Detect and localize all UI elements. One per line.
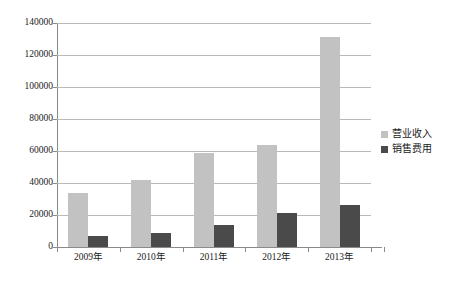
y-tick-label: 80000 [0, 114, 53, 124]
x-tick-mark [120, 247, 121, 252]
bar-group [131, 23, 171, 247]
bar-revenue[interactable] [131, 180, 151, 247]
x-tick-label: 2013年 [308, 253, 371, 263]
legend-label: 销售费用 [392, 144, 432, 154]
bar-expense[interactable] [214, 225, 234, 247]
y-tick-label: 100000 [0, 82, 53, 92]
legend-item-revenue[interactable]: 营业收入 [381, 129, 432, 139]
bar-expense[interactable] [88, 236, 108, 247]
legend-item-expense[interactable]: 销售费用 [381, 144, 432, 154]
y-tick-label: 120000 [0, 50, 53, 60]
x-tick-mark [245, 247, 246, 252]
bar-revenue[interactable] [68, 193, 88, 247]
x-tick-label: 2010年 [120, 253, 183, 263]
y-tick-label: 40000 [0, 178, 53, 188]
x-tick-mark [183, 247, 184, 252]
bar-revenue[interactable] [257, 145, 277, 247]
gridline [57, 247, 371, 248]
chart-legend: 营业收入销售费用 [381, 129, 432, 154]
bar-group [68, 23, 108, 247]
x-tick-mark [384, 247, 385, 252]
bar-group [257, 23, 297, 247]
bar-revenue[interactable] [320, 37, 340, 247]
x-tick-label: 2012年 [245, 253, 308, 263]
x-tick-label: 2011年 [183, 253, 246, 263]
y-tick-label: 20000 [0, 210, 53, 220]
x-tick-mark [57, 247, 58, 252]
y-axis-labels: 020000400006000080000100000120000140000 [0, 0, 53, 285]
bar-chart: 020000400006000080000100000120000140000 … [0, 0, 455, 285]
y-tick-label: 140000 [0, 18, 53, 28]
bar-revenue[interactable] [194, 153, 214, 247]
plot-area [57, 23, 371, 247]
y-tick-label: 0 [0, 242, 53, 252]
y-tick-label: 60000 [0, 146, 53, 156]
bar-expense[interactable] [151, 233, 171, 247]
bar-group [320, 23, 360, 247]
x-tick-label: 2009年 [57, 253, 120, 263]
legend-swatch-icon [381, 146, 388, 153]
legend-swatch-icon [381, 131, 388, 138]
x-tick-mark [371, 247, 372, 252]
bar-group [194, 23, 234, 247]
bar-expense[interactable] [340, 205, 360, 247]
x-tick-mark [308, 247, 309, 252]
bar-expense[interactable] [277, 213, 297, 247]
legend-label: 营业收入 [392, 129, 432, 139]
